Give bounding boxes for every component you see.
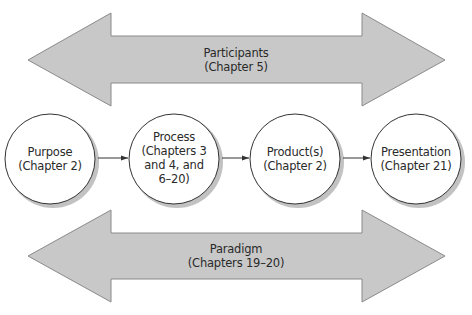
presentation-title: Presentation bbox=[371, 145, 461, 159]
participants-subtitle: (Chapter 5) bbox=[136, 60, 336, 74]
products-title: Product(s) bbox=[250, 145, 340, 159]
purpose-label: Purpose (Chapter 2) bbox=[5, 145, 95, 173]
participants-label: Participants (Chapter 5) bbox=[136, 46, 336, 74]
presentation-chapter: (Chapter 21) bbox=[371, 159, 461, 173]
presentation-label: Presentation (Chapter 21) bbox=[371, 145, 461, 173]
process-label: Process (Chapters 3 and 4, and 6–20) bbox=[129, 130, 219, 186]
purpose-title: Purpose bbox=[5, 145, 95, 159]
products-label: Product(s) (Chapter 2) bbox=[250, 145, 340, 173]
paradigm-subtitle: (Chapters 19–20) bbox=[136, 256, 336, 270]
paradigm-label: Paradigm (Chapters 19–20) bbox=[136, 242, 336, 270]
paradigm-title: Paradigm bbox=[136, 242, 336, 256]
process-chapter-line-2: and 4, and bbox=[129, 158, 219, 172]
process-chapter-line-3: 6–20) bbox=[129, 172, 219, 186]
purpose-chapter: (Chapter 2) bbox=[5, 159, 95, 173]
participants-title: Participants bbox=[136, 46, 336, 60]
process-title: Process bbox=[129, 130, 219, 144]
products-chapter: (Chapter 2) bbox=[250, 159, 340, 173]
process-chapter-line-1: (Chapters 3 bbox=[129, 144, 219, 158]
